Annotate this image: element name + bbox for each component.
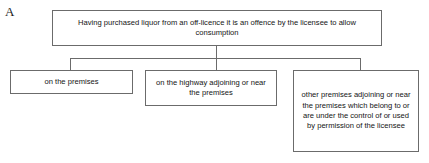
- node-branch-1-text: on the premises: [15, 77, 128, 87]
- node-branch-2-text: on the highway adjoining or near the pre…: [150, 78, 272, 99]
- connector-drop-branch-1: [70, 58, 71, 70]
- flowchart-diagram: A Having purchased liquor from an off-li…: [0, 0, 429, 163]
- node-root-text: Having purchased liquor from an off-lice…: [57, 18, 377, 39]
- node-branch-3-text: other premises adjoining or near the pre…: [298, 90, 414, 132]
- node-branch-other-premises: other premises adjoining or near the pre…: [293, 70, 419, 152]
- node-branch-on-the-premises: on the premises: [10, 70, 133, 94]
- connector-drop-branch-2: [216, 58, 217, 70]
- connector-root-stem: [216, 46, 217, 58]
- connector-drop-branch-3: [360, 58, 361, 70]
- panel-label: A: [5, 4, 15, 20]
- node-root-offence: Having purchased liquor from an off-lice…: [52, 10, 382, 46]
- node-branch-on-the-highway: on the highway adjoining or near the pre…: [145, 70, 277, 106]
